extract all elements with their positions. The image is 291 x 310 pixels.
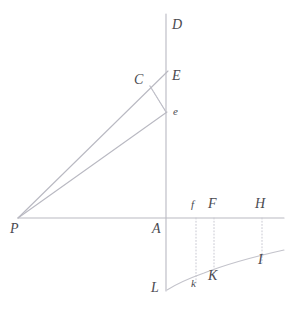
geometric-diagram: DECePAfFHLkKI [0,0,291,310]
ray-p-to-e-lower [18,112,167,218]
diagram-canvas [0,0,291,310]
ray-p-to-e-upper [18,71,168,218]
point-label-E: E [172,69,181,83]
hyperbolic-curve-L-k-K-I [167,250,284,290]
point-label-K: K [208,269,217,283]
point-label-f: f [191,199,194,210]
dotted-guide-lines [150,86,262,284]
point-label-e: e [173,106,178,117]
point-label-A: A [152,222,161,236]
construction-lines [18,71,168,218]
point-label-P: P [10,222,19,236]
point-label-F: F [208,197,217,211]
point-label-H: H [255,197,265,211]
point-label-C: C [134,73,143,87]
point-label-k: k [191,278,196,289]
point-label-I: I [258,253,263,267]
point-label-L: L [151,281,159,295]
point-label-D: D [172,18,182,32]
